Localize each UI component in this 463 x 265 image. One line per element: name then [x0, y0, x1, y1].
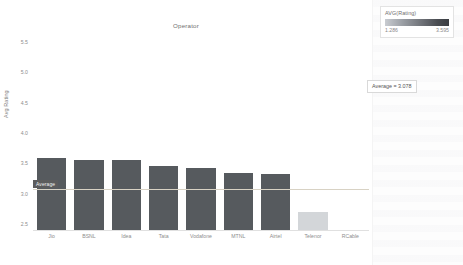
x-tick-label[interactable]: Jio: [33, 232, 70, 240]
bar-idea[interactable]: [112, 160, 141, 230]
legend-title: AVG(Rating): [385, 10, 449, 17]
y-tick-label: 5.5: [21, 39, 28, 45]
bar-slot: [112, 36, 141, 230]
bar-vodafone[interactable]: [186, 168, 215, 230]
y-tick-label: 4.0: [21, 130, 28, 136]
y-axis-ticks: 5.55.04.54.03.53.02.5: [0, 36, 31, 230]
color-legend[interactable]: AVG(Rating) 1.286 3.595: [380, 6, 454, 38]
x-tick-label[interactable]: Vodafone: [182, 232, 219, 240]
bar-jio[interactable]: [37, 158, 66, 230]
bar-slot: [261, 36, 290, 230]
x-tick-label[interactable]: Telenor: [294, 232, 331, 240]
bar-slot: [37, 36, 66, 230]
bar-slot: [149, 36, 178, 230]
y-tick-label: 3.0: [21, 191, 28, 197]
plot-area: Average: [33, 36, 369, 230]
bar-series: [33, 36, 369, 230]
x-tick-label[interactable]: RCable: [332, 232, 369, 240]
average-reference-badge[interactable]: Average: [33, 180, 58, 188]
y-tick-label: 5.0: [21, 69, 28, 75]
x-axis-labels: JioBSNLIdeaTataVodafoneMTNLAirtelTelenor…: [33, 232, 369, 244]
y-tick-label: 4.5: [21, 100, 28, 106]
x-axis-line: [33, 230, 369, 231]
bar-slot: [336, 36, 365, 230]
x-tick-label[interactable]: Tata: [145, 232, 182, 240]
legend-scale: 1.286 3.595: [385, 27, 449, 34]
legend-min-value: 1.286: [385, 27, 398, 34]
bar-tata[interactable]: [149, 166, 178, 230]
x-tick-label[interactable]: MTNL: [220, 232, 257, 240]
y-tick-label: 3.5: [21, 160, 28, 166]
bar-bsnl[interactable]: [74, 160, 103, 230]
side-panel-texture: [373, 0, 463, 265]
legend-max-value: 3.595: [436, 27, 449, 34]
bar-slot: [298, 36, 327, 230]
right-side-panel: [372, 0, 463, 265]
bar-telenor[interactable]: [298, 212, 327, 230]
x-tick-label[interactable]: Idea: [108, 232, 145, 240]
chart-title: Operator: [0, 22, 372, 29]
bar-slot: [74, 36, 103, 230]
y-tick-label: 2.5: [21, 221, 28, 227]
average-reference-line: [33, 189, 369, 190]
bar-airtel[interactable]: [261, 174, 290, 230]
average-callout-label[interactable]: Average = 3.078: [367, 80, 417, 93]
bar-slot: [186, 36, 215, 230]
x-tick-label[interactable]: Airtel: [257, 232, 294, 240]
legend-gradient-ramp: [385, 19, 449, 26]
x-tick-label[interactable]: BSNL: [70, 232, 107, 240]
bar-slot: [224, 36, 253, 230]
bar-mtnl[interactable]: [224, 173, 253, 230]
